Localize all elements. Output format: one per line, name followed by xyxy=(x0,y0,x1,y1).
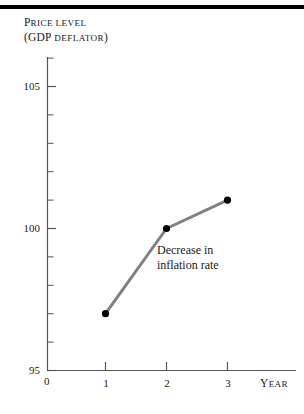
annotation-line1: Decrease in xyxy=(157,243,219,258)
data-point-year-1 xyxy=(102,310,109,317)
annotation-line2: inflation rate xyxy=(157,258,219,273)
x-axis-ticks xyxy=(106,362,228,371)
x-tick-label-2: 2 xyxy=(154,377,180,389)
origin-label-zero: 0 xyxy=(44,375,50,387)
y-tick-label-95: 95 xyxy=(6,364,40,376)
y-axis-major-ticks xyxy=(48,87,57,371)
chart-figure: PRICE LEVEL (GDP DEFLATOR) xyxy=(0,0,304,414)
data-point-year-3 xyxy=(224,197,231,204)
axes-group xyxy=(47,57,296,371)
plot-area xyxy=(0,0,304,414)
x-axis-title-initial: Y xyxy=(260,377,269,389)
x-axis-title-rest: EAR xyxy=(269,379,288,389)
y-axis-minor-ticks xyxy=(48,58,54,342)
x-tick-label-3: 3 xyxy=(215,377,241,389)
y-tick-label-105: 105 xyxy=(6,80,40,92)
data-point-year-2 xyxy=(163,225,170,232)
x-axis-title: YEAR xyxy=(260,377,288,389)
annotation-decrease-in-inflation-rate: Decrease in inflation rate xyxy=(157,243,219,274)
x-tick-label-1: 1 xyxy=(93,377,119,389)
y-tick-label-100: 100 xyxy=(6,222,40,234)
